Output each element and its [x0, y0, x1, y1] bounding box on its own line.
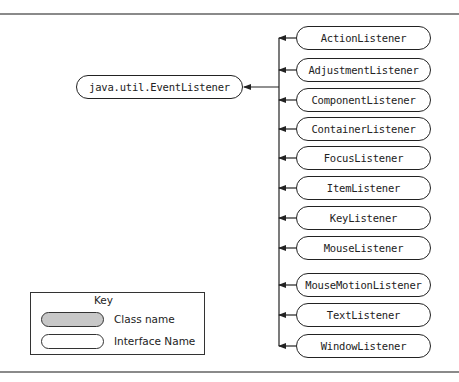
node-containerlistener: ContainerListener: [296, 117, 431, 141]
node-mouselistener: MouseListener: [296, 236, 431, 260]
bottom-rule: [0, 371, 459, 373]
legend-interface-label: Interface Name: [114, 335, 195, 347]
legend-title: Key: [94, 294, 113, 306]
legend: Key Class name Interface Name: [30, 292, 205, 355]
legend-class-swatch: [41, 312, 104, 327]
node-actionlistener: ActionListener: [296, 26, 431, 50]
node-itemlistener: ItemListener: [296, 176, 431, 200]
node-adjustmentlistener: AdjustmentListener: [296, 58, 431, 82]
node-keylistener: KeyListener: [296, 206, 431, 230]
node-focuslistener: FocusListener: [296, 146, 431, 170]
legend-class-label: Class name: [114, 313, 175, 325]
legend-interface-swatch: [41, 334, 104, 349]
node-java-util-eventlistener: java.util.EventListener: [76, 75, 243, 99]
node-mousemotionlistener: MouseMotionListener: [296, 273, 431, 297]
node-windowlistener: WindowListener: [296, 334, 431, 358]
node-componentlistener: ComponentListener: [296, 88, 431, 112]
node-textlistener: TextListener: [296, 303, 431, 327]
